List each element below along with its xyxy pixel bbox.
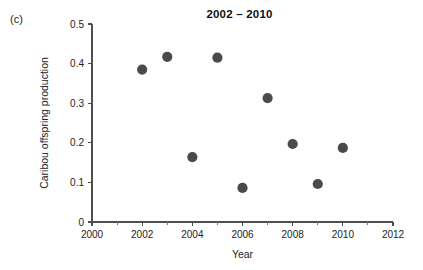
scatter-plot: 00.10.20.30.40.5 Caribou offspring produ… [0,0,423,270]
data-point-series [137,52,348,193]
data-point [338,143,348,153]
x-tick-label: 2000 [81,229,104,240]
y-tick-label: 0.2 [70,137,84,148]
y-tick-label: 0.3 [70,98,84,109]
data-point [313,179,323,189]
y-axis-title: Caribou offspring production [38,57,50,189]
x-axis-title: Year [232,248,254,260]
x-tick-label: 2008 [282,229,305,240]
data-point [137,64,147,74]
y-tick-label: 0.1 [70,177,84,188]
x-axis-group: 2000200220042006200820102012 Year [81,222,405,260]
data-point [212,53,222,63]
x-tick-label: 2010 [332,229,355,240]
y-axis-group: 00.10.20.30.40.5 Caribou offspring produ… [38,19,92,228]
data-point [187,152,197,162]
x-tick-label: 2002 [131,229,154,240]
data-point [237,183,247,193]
x-tick-label: 2004 [181,229,204,240]
y-tick-label: 0.5 [70,19,84,30]
y-tick-labels: 00.10.20.30.40.5 [70,19,84,228]
y-tick-label: 0.4 [70,58,84,69]
x-tick-labels: 2000200220042006200820102012 [81,229,405,240]
x-tick-label: 2006 [231,229,254,240]
data-point [262,93,272,103]
data-point [162,52,172,62]
x-tick-marks [92,222,393,226]
y-tick-label: 0 [78,217,84,228]
figure-panel-c: (c) 2002 – 2010 00.10.20.30.40.5 Caribou… [0,0,423,270]
x-tick-label: 2012 [382,229,405,240]
data-point [288,139,298,149]
